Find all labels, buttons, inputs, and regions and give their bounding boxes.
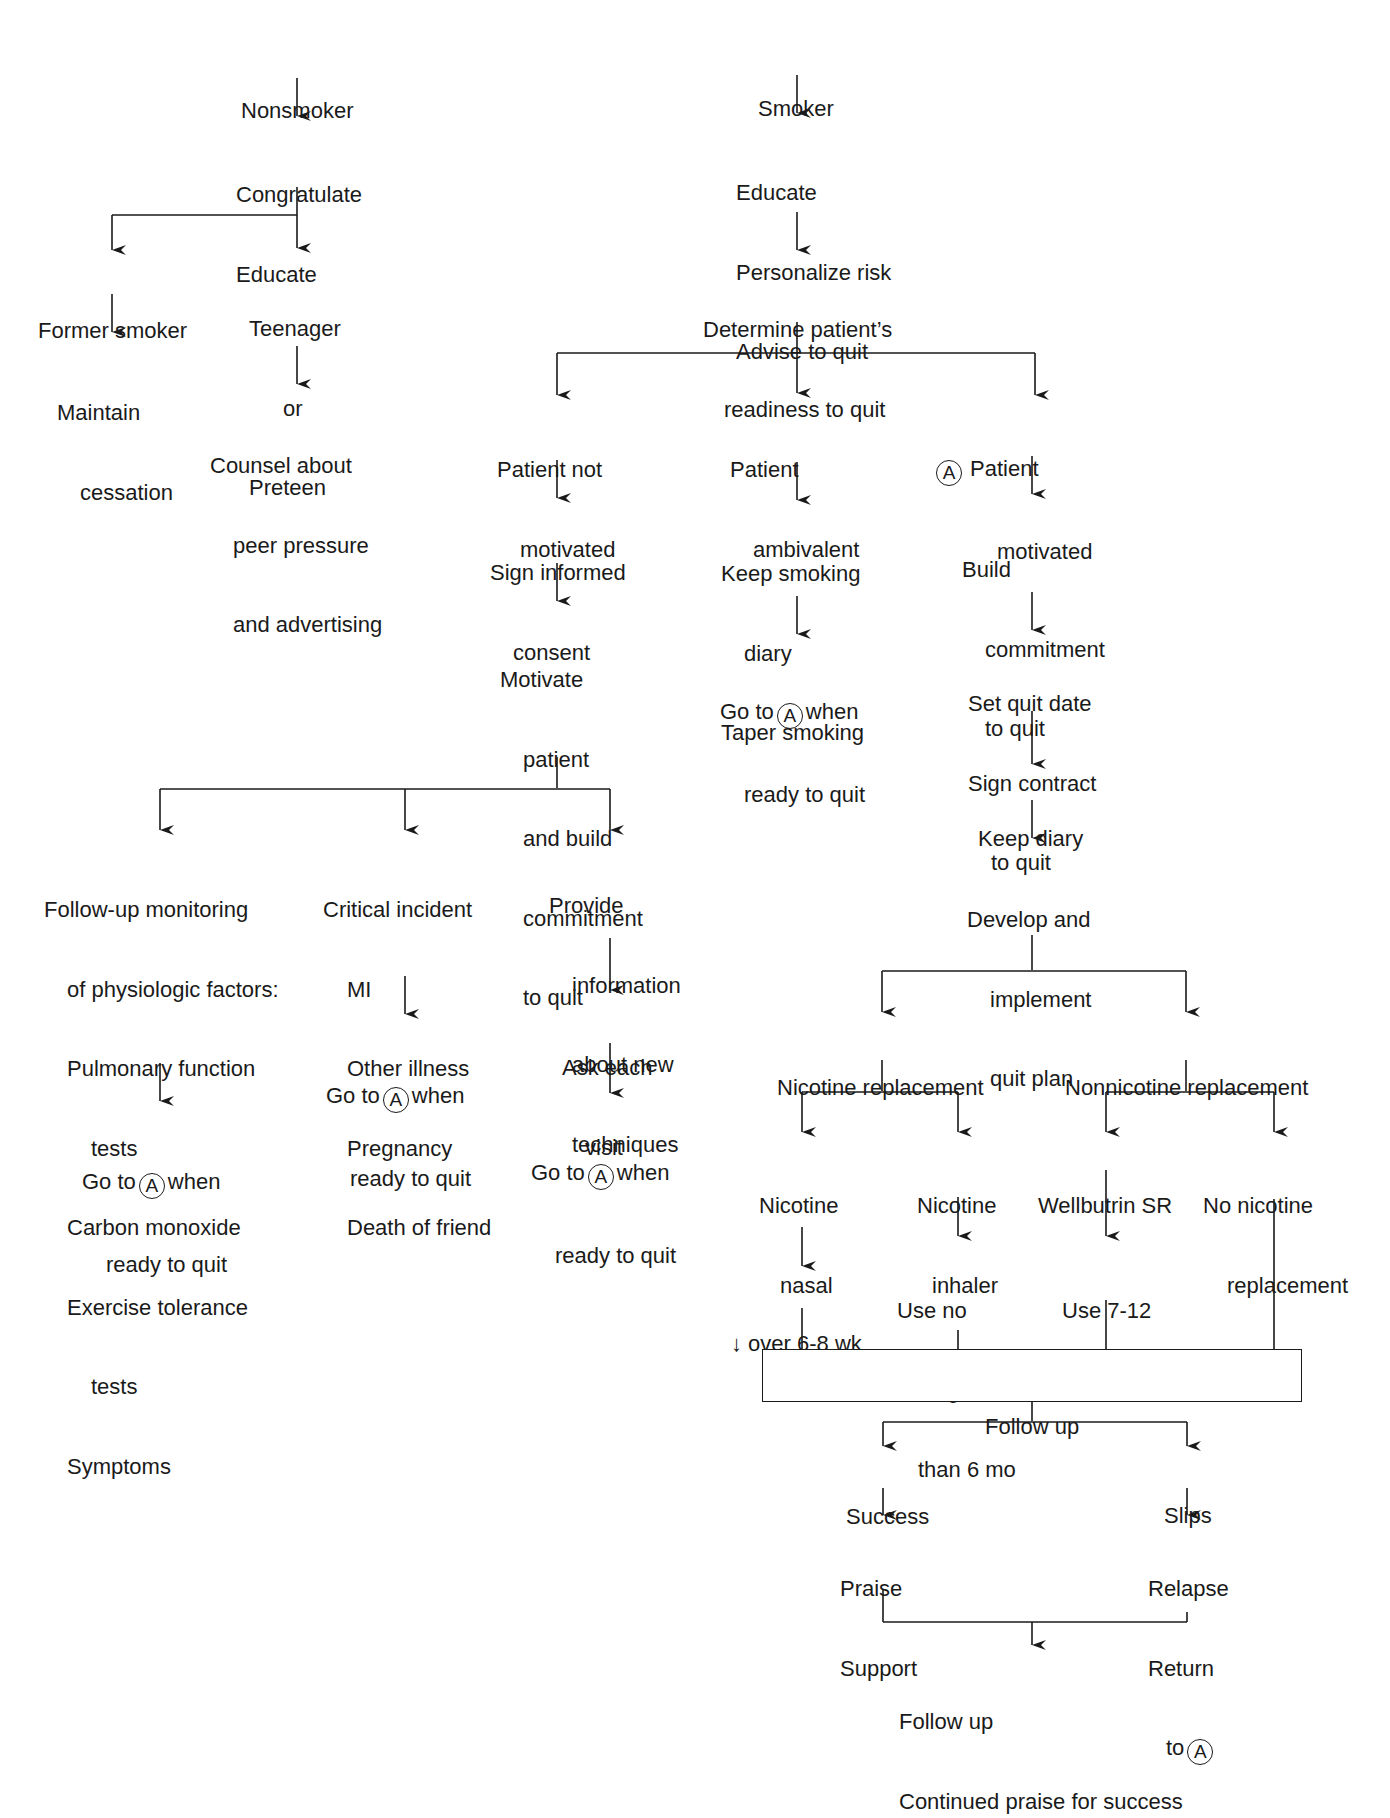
node-label: Use no — [897, 1298, 1016, 1325]
node-label: implement — [967, 987, 1091, 1014]
node-label: Nonnicotine replacement — [1065, 1075, 1308, 1102]
node-final-follow-up: Follow up Continued praise for success — [899, 1656, 1183, 1818]
node-label: patient — [500, 747, 643, 774]
node-label: MI — [323, 977, 491, 1004]
node-label: when — [617, 1160, 670, 1185]
node-label: when — [168, 1169, 221, 1194]
node-label: Wellbutrin SR — [1038, 1193, 1172, 1220]
node-label: Patient — [730, 457, 859, 484]
node-label: when — [806, 699, 859, 724]
node-label: Relapse — [1148, 1576, 1229, 1603]
node-goto-a-monitoring: Go toAwhen ready to quit — [82, 1116, 227, 1305]
node-label: Follow up — [899, 1709, 1183, 1736]
node-label: Nicotine replacement — [777, 1075, 984, 1102]
node-label: Ask each — [562, 1055, 653, 1082]
marker-a-icon: A — [383, 1087, 409, 1113]
node-label: Keep diary — [978, 826, 1083, 853]
node-label: Pulmonary function — [44, 1056, 279, 1083]
node-label: Congratulate — [236, 182, 362, 209]
node-label: Patient — [970, 456, 1039, 481]
node-no-nicotine-replacement: No nicotine replacement — [1203, 1140, 1348, 1326]
node-label: information — [549, 973, 681, 1000]
node-label: Critical incident — [323, 897, 491, 924]
node-label: Follow-up monitoring — [44, 897, 279, 924]
node-label: Keep smoking — [721, 561, 864, 588]
node-follow-up: Follow up — [985, 1361, 1079, 1467]
marker-a-icon: A — [777, 703, 803, 729]
node-label: Nicotine — [917, 1193, 998, 1220]
node-goto-a-critical: Go toAwhen ready to quit — [326, 1030, 471, 1219]
node-label: Continued praise for success — [899, 1789, 1183, 1816]
node-label: ready to quit — [720, 782, 865, 809]
node-label: Former smoker — [38, 318, 187, 345]
node-label: Smoker — [758, 96, 834, 123]
node-label: Teenager — [249, 316, 341, 343]
node-label: Go to — [82, 1169, 136, 1194]
node-label: and advertising — [210, 612, 382, 639]
node-label: Patient not — [497, 457, 615, 484]
node-label: Develop and — [967, 907, 1091, 934]
node-label: Determine patient’s — [703, 317, 892, 344]
node-label: cessation — [57, 480, 173, 507]
node-label: Motivate — [500, 667, 643, 694]
node-goto-a-ambivalent: Go toAwhen ready to quit — [720, 646, 865, 835]
node-label: Educate — [736, 180, 891, 207]
node-label: Nicotine — [759, 1193, 838, 1220]
node-counsel: Counsel about peer pressure and advertis… — [210, 400, 382, 665]
marker-a-icon: A — [588, 1164, 614, 1190]
marker-a-icon: A — [1187, 1739, 1213, 1765]
node-nicotine-replacement: Nicotine replacement — [777, 1022, 984, 1128]
node-label: ready to quit — [531, 1243, 676, 1270]
node-label: of physiologic factors: — [44, 977, 279, 1004]
node-label: Praise — [840, 1576, 917, 1603]
node-nonnicotine-replacement: Nonnicotine replacement — [1065, 1022, 1308, 1128]
node-label: Provide — [549, 893, 681, 920]
marker-a-icon: A — [139, 1173, 165, 1199]
node-label: Nonsmoker — [241, 98, 353, 125]
node-label: tests — [44, 1374, 279, 1401]
node-goto-a-provide: Go toAwhen ready to quit — [531, 1107, 676, 1296]
marker-a-icon: A — [936, 460, 962, 486]
node-maintain-cessation: Maintain cessation — [57, 347, 173, 533]
node-label: when — [412, 1083, 465, 1108]
node-label: No nicotine — [1203, 1193, 1348, 1220]
node-label: replacement — [1203, 1273, 1348, 1300]
node-label: Counsel about — [210, 453, 382, 480]
node-label: Follow up — [985, 1414, 1079, 1441]
node-label: ready to quit — [326, 1166, 471, 1193]
node-label: Go to — [531, 1160, 585, 1185]
node-label: Symptoms — [44, 1454, 279, 1481]
node-label: Use 7-12 — [1062, 1298, 1151, 1325]
node-label: Sign informed — [490, 560, 626, 587]
node-label: Maintain — [57, 400, 173, 427]
node-label: ready to quit — [82, 1252, 227, 1279]
node-label: Go to — [720, 699, 774, 724]
node-label: Build — [962, 557, 1105, 584]
node-label: peer pressure — [210, 533, 382, 560]
node-label: Set quit date — [968, 691, 1096, 718]
node-label: Go to — [326, 1083, 380, 1108]
node-wellbutrin-sr: Wellbutrin SR — [1038, 1140, 1172, 1246]
